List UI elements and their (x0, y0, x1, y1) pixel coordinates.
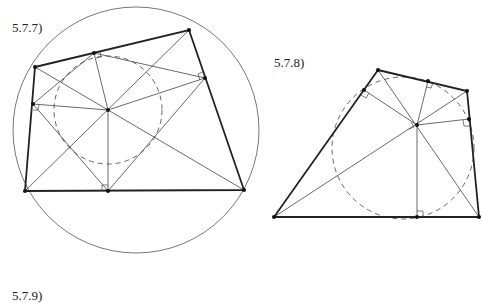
pedal-quadrilateral (33, 53, 205, 191)
circumcircle (13, 7, 259, 253)
perpendicular (417, 81, 428, 125)
perpendicular (417, 119, 469, 125)
quadrilateral (274, 70, 479, 217)
figure-label-5-7-7: 5.7.7) (12, 21, 42, 34)
figure-label-5-7-8: 5.7.8) (274, 56, 304, 69)
quadrilateral (25, 30, 244, 191)
perpendicular (364, 90, 417, 125)
figure-label-5-7-9: 5.7.9) (12, 289, 42, 302)
perpendicular (108, 78, 205, 110)
figure-5-7-7 (13, 7, 259, 253)
diagonal (378, 70, 479, 217)
circle-dashed (332, 77, 474, 219)
figure-5-7-8 (272, 68, 481, 219)
perpendicular (94, 53, 108, 110)
diagonal (274, 91, 467, 217)
perpendicular (33, 104, 108, 110)
diagonal (35, 67, 244, 190)
